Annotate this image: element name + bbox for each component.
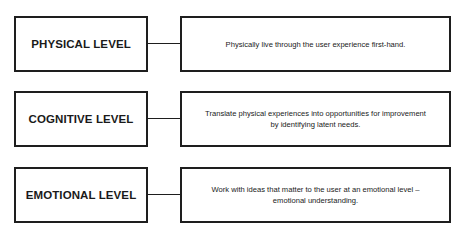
description-box-physical: Physically live through the user experie… xyxy=(180,16,451,72)
level-row-emotional: EMOTIONAL LEVEL Work with ideas that mat… xyxy=(0,167,464,223)
description-box-cognitive: Translate physical experiences into oppo… xyxy=(180,91,451,147)
level-description: Physically live through the user experie… xyxy=(226,39,406,50)
description-box-emotional: Work with ideas that matter to the user … xyxy=(180,167,451,223)
level-label: EMOTIONAL LEVEL xyxy=(26,189,137,201)
level-box-cognitive: COGNITIVE LEVEL xyxy=(14,91,148,147)
level-label: COGNITIVE LEVEL xyxy=(28,113,133,125)
connector-line xyxy=(148,118,180,119)
level-box-emotional: EMOTIONAL LEVEL xyxy=(14,167,148,223)
connector-line xyxy=(148,43,180,44)
level-row-cognitive: COGNITIVE LEVEL Translate physical exper… xyxy=(0,91,464,147)
level-description: Translate physical experiences into oppo… xyxy=(200,108,431,130)
level-box-physical: PHYSICAL LEVEL xyxy=(14,16,148,72)
level-description: Work with ideas that matter to the user … xyxy=(200,184,431,206)
connector-line xyxy=(148,194,180,195)
level-row-physical: PHYSICAL LEVEL Physically live through t… xyxy=(0,16,464,72)
level-label: PHYSICAL LEVEL xyxy=(31,38,131,50)
